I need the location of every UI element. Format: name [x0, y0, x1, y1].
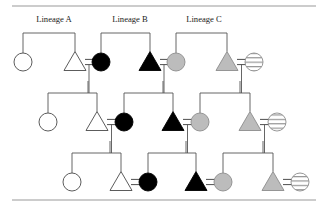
- g1-s3-circle-filled: [92, 53, 110, 71]
- g2-s7-circle-hatch: [268, 113, 286, 131]
- m-g2-c: [260, 119, 269, 153]
- g3-s1-circle-open: [63, 173, 81, 191]
- sib-g3-a: [72, 141, 121, 173]
- sib-g3-b: [148, 141, 196, 173]
- sib-g3-c: [223, 141, 273, 173]
- g2-s3-circle-filled: [115, 113, 133, 131]
- m-g2-b: [183, 119, 192, 153]
- m-g1-b: [160, 59, 168, 93]
- g1-s4-triangle-filled: [139, 52, 161, 71]
- sib-g1-b: [101, 33, 150, 53]
- lineage-label-c: Lineage C: [186, 14, 222, 24]
- g3-s7-circle-hatch: [291, 173, 309, 191]
- g3-s3-circle-filled: [139, 173, 157, 191]
- pedigree-figure: Lineage ALineage BLineage C: [0, 0, 328, 211]
- sib-g2-c: [200, 81, 250, 113]
- g3-s6-triangle-gray: [262, 172, 284, 191]
- sib-g2-a: [48, 81, 97, 113]
- sib-g2-b: [124, 81, 173, 113]
- g1-s6-triangle-gray: [216, 52, 238, 71]
- g2-s2-triangle-open: [86, 112, 108, 131]
- g2-s1-circle-open: [39, 113, 57, 131]
- lineage-label-b: Lineage B: [112, 14, 148, 24]
- g1-s1-circle-open: [14, 53, 32, 71]
- sibship-lines: [23, 33, 273, 173]
- lineage-labels: Lineage ALineage BLineage C: [36, 14, 222, 24]
- g1-s2-triangle-open: [64, 52, 86, 71]
- individual-symbols: [14, 52, 309, 192]
- g3-s5-circle-gray: [214, 173, 232, 191]
- g2-s6-triangle-gray: [239, 112, 261, 131]
- g1-s5-circle-gray: [167, 53, 185, 71]
- g2-s5-circle-gray: [191, 113, 209, 131]
- pedigree-canvas: Lineage ALineage BLineage C: [0, 0, 328, 211]
- sib-g1-c: [176, 33, 227, 53]
- m-g2-a: [107, 119, 116, 153]
- lineage-label-a: Lineage A: [36, 14, 72, 24]
- sib-g1-a: [23, 33, 75, 53]
- g3-s4-triangle-filled: [185, 172, 207, 191]
- m-g1-a: [85, 59, 93, 93]
- g1-s7-circle-hatch: [245, 53, 263, 71]
- g3-s2-triangle-open: [110, 172, 132, 191]
- g2-s4-triangle-filled: [162, 112, 184, 131]
- frame-rules: [12, 6, 316, 200]
- m-g1-c: [237, 59, 246, 93]
